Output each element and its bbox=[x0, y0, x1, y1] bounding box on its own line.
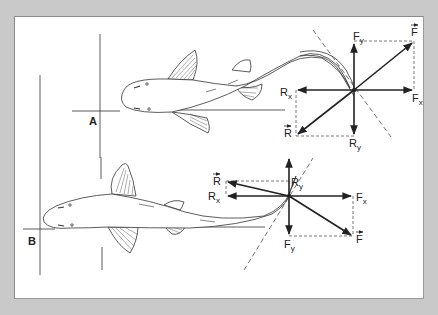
force-diagram: Fy F Rx Fx R Ry A bbox=[0, 0, 438, 315]
label-rx-b: Rx bbox=[208, 190, 220, 205]
svg-text:F: F bbox=[411, 26, 418, 38]
svg-text:R: R bbox=[284, 127, 292, 139]
label-fy-a: Fy bbox=[353, 30, 364, 45]
label-f-b: F bbox=[356, 232, 363, 245]
vector-diagram-b: R Ry Rx Fx Fy F bbox=[208, 159, 367, 253]
label-f-a: F bbox=[411, 25, 418, 38]
vector-diagram-a: Fy F Rx Fx R Ry bbox=[280, 25, 423, 152]
label-ry-b: Ry bbox=[291, 176, 303, 191]
fish-b bbox=[43, 164, 296, 253]
label-fx-b: Fx bbox=[356, 191, 367, 206]
label-rx-a: Rx bbox=[280, 86, 292, 101]
label-r-a: R bbox=[284, 126, 292, 139]
panel-label-a: A bbox=[89, 115, 97, 127]
svg-text:R: R bbox=[213, 175, 221, 187]
label-r-b: R bbox=[213, 174, 221, 187]
panel-label-b: B bbox=[28, 235, 36, 247]
tail-tangent-a bbox=[313, 30, 391, 137]
svg-text:F: F bbox=[356, 233, 363, 245]
fish-a bbox=[121, 50, 356, 133]
label-fx-a: Fx bbox=[412, 92, 423, 107]
label-ry-a: Ry bbox=[349, 137, 361, 152]
tail-tangent-b bbox=[244, 158, 313, 270]
label-fy-b: Fy bbox=[284, 238, 295, 253]
